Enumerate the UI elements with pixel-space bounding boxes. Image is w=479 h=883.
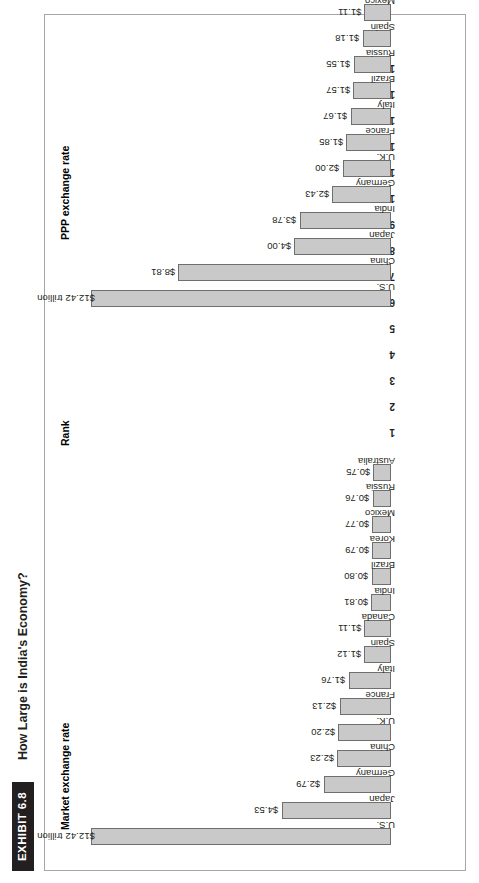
bar: [343, 160, 391, 177]
bar-group: $2.43Germany: [91, 183, 391, 206]
bar-value-label: $1.18: [335, 33, 359, 44]
bar-group: $0.75Australia: [91, 461, 391, 484]
exhibit-header: EXHIBIT 6.8 How Large is India's Economy…: [12, 572, 34, 871]
rank-cell: 4: [91, 354, 391, 377]
bar-value-label: $0.75: [346, 467, 370, 478]
bar-group: $2.79Germany: [91, 773, 391, 796]
bar-value-label: $1.67: [323, 111, 347, 122]
bar-group: $2.13France: [91, 695, 391, 718]
bar-group: $1.18Spain: [91, 27, 391, 50]
bar: [346, 134, 391, 151]
bar: [372, 542, 391, 559]
bar-value-label: $8.81: [151, 267, 175, 278]
rank-cell: 5: [91, 328, 391, 351]
bar-group: $2.20U.K.: [91, 721, 391, 744]
bar: [337, 750, 391, 767]
bar-value-label: $2.13: [312, 701, 336, 712]
bar: [332, 186, 391, 203]
bar-group: $1.76Italy: [91, 669, 391, 692]
bar-value-label: $3.78: [272, 215, 296, 226]
bar-group: $0.76Russia: [91, 487, 391, 510]
rank-cell: 3: [91, 380, 391, 403]
bar: [338, 724, 391, 741]
bar-group: $0.79Korea: [91, 539, 391, 562]
column-header-ppp: PPP exchange rate: [59, 146, 71, 240]
bar-group: $8.81China: [91, 261, 391, 284]
bar: [364, 646, 391, 663]
bar: [363, 30, 392, 47]
bar-group: $1.67Italy: [91, 105, 391, 128]
bar-group: $1.12Spain: [91, 643, 391, 666]
bar-group: $1.11Canada: [91, 617, 391, 640]
bar: [372, 568, 391, 585]
exhibit-tag: EXHIBIT 6.8: [12, 782, 34, 871]
bar-value-label: $2.20: [311, 727, 335, 738]
bar-group: $12.42 trillionU.S.: [91, 825, 391, 848]
bar-value-label: $0.80: [344, 571, 368, 582]
bar-category-label: Mexico: [365, 0, 395, 7]
bar-value-label: $0.76: [345, 493, 369, 504]
bar-group: $1.55Russia: [91, 53, 391, 76]
chart-frame: Market exchange rate Rank PPP exchange r…: [44, 14, 466, 871]
bar: [91, 828, 391, 845]
bar: [373, 490, 391, 507]
exhibit-page: EXHIBIT 6.8 How Large is India's Economy…: [0, 0, 479, 883]
bar-group: $1.57Brazil: [91, 79, 391, 102]
bar: [340, 698, 391, 715]
rank-cell: 1: [91, 432, 391, 455]
rank-cell: 2: [91, 406, 391, 429]
bar-group: $1.85France: [91, 131, 391, 154]
bar-group: $0.80Brazil: [91, 565, 391, 588]
bar-value-label: $1.55: [326, 59, 350, 70]
exhibit-container: EXHIBIT 6.8 How Large is India's Economy…: [0, 0, 479, 883]
bar: [372, 516, 391, 533]
bar-value-label: $1.12: [337, 649, 361, 660]
bar-group: $2.00U.K.: [91, 157, 391, 180]
bar-group: $1.11Mexico: [91, 1, 391, 24]
bar-value-label: $2.79: [296, 779, 320, 790]
bar-value-label: $12.42 trillion: [37, 293, 95, 304]
bar-group: $0.81India: [91, 591, 391, 614]
bar: [373, 464, 391, 481]
column-header-market: Market exchange rate: [59, 723, 71, 830]
bar-value-label: $1.76: [321, 675, 345, 686]
bar: [364, 4, 391, 21]
bar: [178, 264, 391, 281]
bar: [282, 802, 391, 819]
bar-value-label: $4.00: [267, 241, 291, 252]
bar-value-label: $1.57: [326, 85, 350, 96]
bar: [294, 238, 391, 255]
bar: [354, 56, 391, 73]
bar-value-label: $0.77: [345, 519, 369, 530]
bar-category-label: Australia: [358, 456, 395, 467]
bar-value-label: $0.81: [344, 597, 368, 608]
bar-value-label: $1.85: [319, 137, 343, 148]
page-title: How Large is India's Economy?: [16, 572, 30, 760]
bar: [300, 212, 391, 229]
bar-group: $0.77Mexico: [91, 513, 391, 536]
bar-group: $4.00Japan: [91, 235, 391, 258]
bar-value-label: $2.43: [305, 189, 329, 200]
bar-value-label: $4.53: [254, 805, 278, 816]
bar-value-label: $2.00: [315, 163, 339, 174]
bar-value-label: $0.79: [345, 545, 369, 556]
bar-group: $3.78India: [91, 209, 391, 232]
column-header-rank: Rank: [59, 420, 71, 446]
bar-value-label: $12.42 trillion: [37, 831, 95, 842]
bar: [351, 108, 391, 125]
bar-value-label: $1.11: [338, 623, 362, 634]
bar-value-label: $1.11: [338, 7, 362, 18]
bar: [371, 594, 391, 611]
bar-group: $2.23China: [91, 747, 391, 770]
bar-value-label: $2.23: [310, 753, 334, 764]
bar: [349, 672, 392, 689]
bar-group: $12.42 trillionU.S.: [91, 287, 391, 310]
bar: [353, 82, 391, 99]
bar-chart-market: $12.42 trillionU.S.$4.53Japan$2.79German…: [91, 458, 391, 848]
bar-chart-ppp: $12.42 trillionU.S.$8.81China$4.00Japan$…: [91, 0, 391, 310]
bar-group: $4.53Japan: [91, 799, 391, 822]
bar: [364, 620, 391, 637]
bar: [91, 290, 391, 307]
bar: [324, 776, 391, 793]
